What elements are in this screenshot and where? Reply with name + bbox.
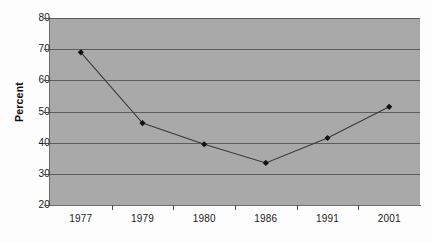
series-marker-group [78, 49, 393, 166]
line-chart: 20304050607080 197719791980198619912001 … [0, 0, 432, 243]
series-line-percent [81, 52, 389, 163]
data-point-marker [201, 141, 207, 147]
data-point-marker [263, 160, 269, 166]
data-point-marker [324, 135, 330, 141]
y-axis-title: Percent [13, 67, 25, 137]
series-layer [0, 0, 432, 243]
data-point-marker [386, 104, 392, 110]
